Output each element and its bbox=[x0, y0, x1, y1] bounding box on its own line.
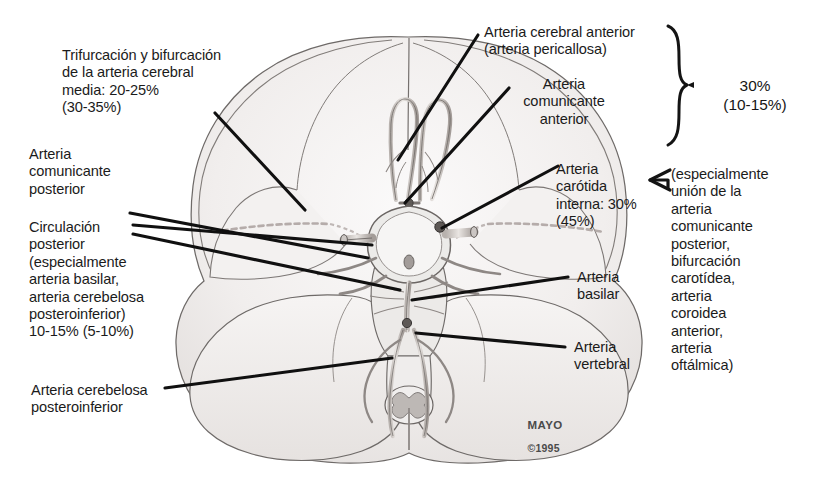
mayo-credit-year: ©1995 bbox=[528, 442, 560, 454]
label-posterior-inferior-cerebellar-artery: Arteria cerebelosa posteroinferior bbox=[31, 382, 148, 417]
label-middle-cerebral-artery: Trifurcación y bifurcación de la arteria… bbox=[62, 47, 221, 117]
label-anterior-group-percent: 30% (10-15%) bbox=[700, 76, 810, 114]
label-anterior-cerebral-artery: Arteria cerebral anterior (arteria peric… bbox=[484, 24, 635, 59]
label-basilar-artery: Arteria basilar bbox=[577, 269, 619, 304]
label-internal-carotid-artery: Arteria carótida interna: 30% (45%) bbox=[556, 161, 637, 231]
label-posterior-communicating-artery: Arteria comunicante posterior bbox=[29, 146, 111, 198]
label-layer: Trifurcación y bifurcación de la arteria… bbox=[0, 0, 819, 485]
label-anterior-communicating-artery: Arteria comunicante anterior bbox=[506, 76, 622, 128]
label-posterior-circulation: Circulación posterior (especialmente art… bbox=[29, 219, 144, 341]
label-vertebral-artery: Arteria vertebral bbox=[574, 339, 630, 374]
anatomy-figure: Trifurcación y bifurcación de la arteria… bbox=[0, 0, 819, 485]
mayo-credit-name: MAYO bbox=[528, 419, 563, 431]
mayo-credit: MAYO ©1995 bbox=[506, 408, 563, 466]
label-internal-carotid-detail: (especialmente unión de la arteria comun… bbox=[671, 166, 769, 375]
